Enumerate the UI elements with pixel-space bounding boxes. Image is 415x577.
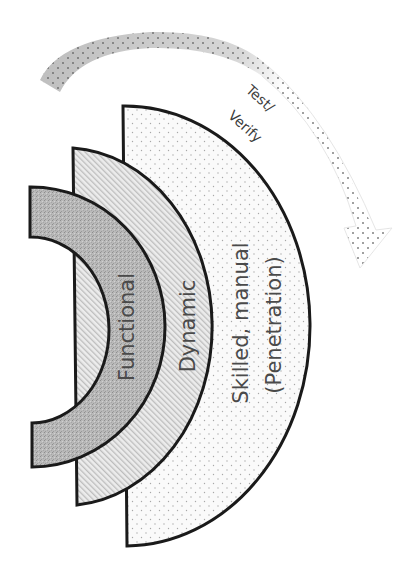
label-functional: Functional <box>115 273 139 381</box>
security-testing-layers-diagram: Functional Dynamic Skilled, manual (Pene… <box>0 0 415 577</box>
label-verify: Verify <box>225 107 265 145</box>
label-dynamic: Dynamic <box>176 280 200 373</box>
label-skilled-manual: Skilled, manual <box>229 242 253 403</box>
label-penetration: (Penetration) <box>262 256 286 393</box>
label-test: Test/ <box>242 81 278 115</box>
